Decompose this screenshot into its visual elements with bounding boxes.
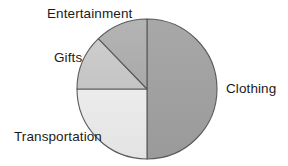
slice-label-gifts: Gifts (54, 51, 82, 65)
pie-slice-transportation[interactable] (77, 89, 147, 159)
slice-label-entertainment: Entertainment (47, 7, 132, 21)
slice-label-clothing: Clothing (226, 82, 276, 96)
pie-slice-clothing[interactable] (147, 19, 217, 159)
pie-chart-figure: Entertainment Gifts Transportation Cloth… (0, 0, 288, 166)
slice-label-transportation: Transportation (14, 130, 102, 144)
